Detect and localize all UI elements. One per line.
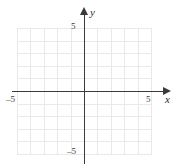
x-axis-tick-label-negative-5: –5	[6, 95, 15, 104]
y-axis-tick-label-negative-5: –5	[67, 147, 76, 156]
coordinate-plane-figure: y x 5 –5 –5 5	[0, 0, 180, 168]
y-axis-line	[84, 14, 85, 164]
x-axis-line	[12, 91, 164, 92]
x-axis-label: x	[165, 94, 170, 105]
y-axis-arrowhead-icon	[80, 7, 88, 15]
y-axis-label: y	[90, 7, 95, 18]
x-axis-tick-label-5: 5	[146, 95, 151, 104]
y-axis-tick-label-5: 5	[71, 22, 76, 31]
